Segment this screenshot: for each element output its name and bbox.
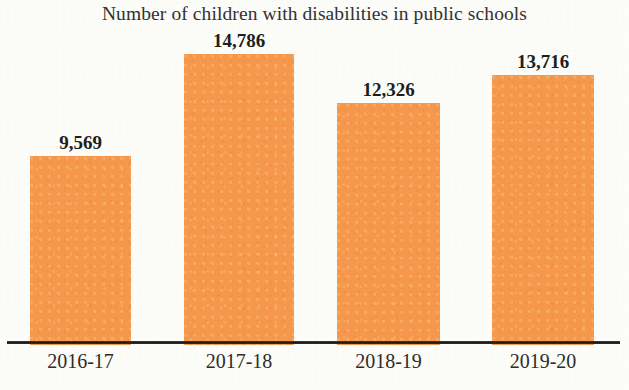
bar-chart-figure: Number of children with disabilities in …: [0, 0, 629, 390]
bar-2017-18: [184, 54, 294, 345]
bar-2016-17: [30, 156, 131, 345]
plot-area: 9,569 14,786 12,326 13,716: [0, 0, 629, 345]
bar-value-label: 14,786: [162, 30, 316, 52]
bar-group-2019-20: 13,716: [492, 75, 594, 345]
bar-value-label: 9,569: [8, 132, 153, 154]
bar-group-2018-19: 12,326: [337, 103, 440, 345]
bar-2019-20: [492, 75, 594, 345]
bar-group-2016-17: 9,569: [30, 156, 131, 345]
x-axis-tick-label-2019-20: 2019-20: [473, 350, 613, 373]
bar-value-label: 12,326: [315, 79, 462, 101]
bar-value-label: 13,716: [470, 51, 616, 73]
x-axis-tick-label-2016-17: 2016-17: [10, 350, 151, 373]
x-axis-tick-label-2018-19: 2018-19: [318, 350, 459, 373]
bar-group-2017-18: 14,786: [184, 54, 294, 345]
x-axis-tick-label-2017-18: 2017-18: [169, 350, 309, 373]
bar-2018-19: [337, 103, 440, 345]
x-axis-line: [7, 341, 620, 344]
